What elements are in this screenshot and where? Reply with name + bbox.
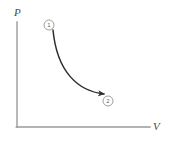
state-1-label: 1	[48, 22, 51, 28]
state-point-1: 1	[44, 20, 54, 30]
pv-diagram: P V 1 2	[0, 0, 169, 141]
x-axis-label: V	[153, 120, 161, 132]
state-point-2: 2	[103, 96, 113, 106]
y-axis-label: P	[13, 6, 21, 18]
pv-diagram-canvas: P V 1 2	[0, 0, 169, 141]
state-2-label: 2	[107, 98, 110, 104]
process-curve-1-to-2	[53, 30, 104, 94]
